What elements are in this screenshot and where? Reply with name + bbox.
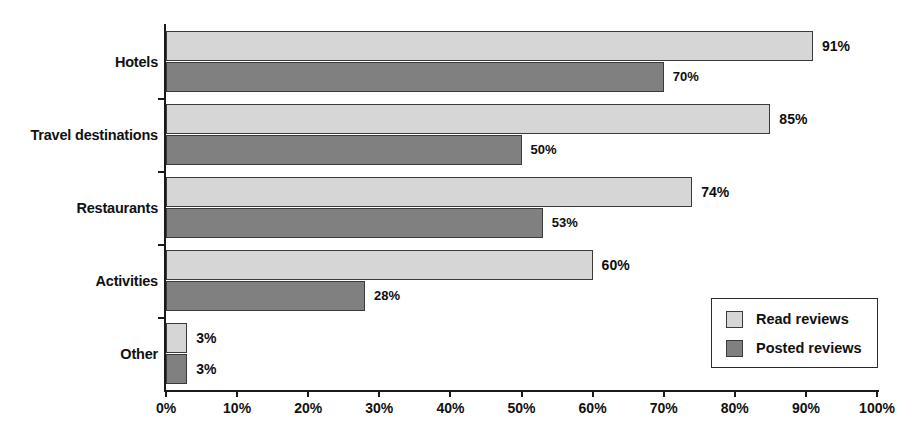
x-axis-tick <box>307 390 309 397</box>
bar-hotels-read-reviews <box>166 31 813 61</box>
bar-other-read-reviews <box>166 323 187 353</box>
y-axis-tick <box>158 244 165 246</box>
x-axis-tick <box>592 390 594 397</box>
x-axis-tick-label: 60% <box>579 401 607 415</box>
bar-restaurants-read-reviews <box>166 177 692 207</box>
bar-value-label: 91% <box>822 39 850 53</box>
legend-label-posted-reviews: Posted reviews <box>756 341 862 356</box>
y-axis-label-travel-destinations: Travel destinations <box>30 128 158 143</box>
x-axis-tick <box>521 390 523 397</box>
x-axis-tick <box>449 390 451 397</box>
legend-label-read-reviews: Read reviews <box>756 312 849 327</box>
bar-activities-posted-reviews <box>166 281 365 311</box>
bar-travel-destinations-read-reviews <box>166 104 770 134</box>
y-axis-label-hotels: Hotels <box>115 55 158 70</box>
x-axis-tick <box>236 390 238 397</box>
y-axis-tick <box>158 317 165 319</box>
x-axis-tick <box>378 390 380 397</box>
y-axis-category-labels: HotelsTravel destinationsRestaurantsActi… <box>0 25 158 390</box>
bar-travel-destinations-posted-reviews <box>166 135 522 165</box>
x-axis-tick-label: 40% <box>436 401 464 415</box>
x-axis-tick-label: 80% <box>721 401 749 415</box>
bar-value-label: 3% <box>196 362 216 376</box>
y-axis-tick <box>158 171 165 173</box>
bar-value-label: 85% <box>779 112 807 126</box>
y-axis-tick <box>158 98 165 100</box>
y-axis-label-activities: Activities <box>96 274 158 289</box>
x-axis-tick-label: 30% <box>365 401 393 415</box>
x-axis-tick <box>805 390 807 397</box>
legend-item-posted-reviews: Posted reviews <box>726 340 862 357</box>
bar-value-label: 74% <box>701 185 729 199</box>
legend-swatch-posted-reviews-icon <box>726 340 743 357</box>
x-axis-tick-label: 20% <box>294 401 322 415</box>
legend-item-read-reviews: Read reviews <box>726 311 849 328</box>
bar-hotels-posted-reviews <box>166 62 664 92</box>
legend-swatch-read-reviews-icon <box>726 311 743 328</box>
bar-value-label: 60% <box>602 258 630 272</box>
bar-activities-read-reviews <box>166 250 593 280</box>
bar-value-label: 3% <box>196 331 216 345</box>
bar-restaurants-posted-reviews <box>166 208 543 238</box>
bar-value-label: 28% <box>374 289 400 302</box>
x-axis-tick-label: 100% <box>859 401 895 415</box>
x-axis-tick-label: 90% <box>792 401 820 415</box>
chart-legend: Read reviews Posted reviews <box>711 298 878 368</box>
x-axis-tick-label: 10% <box>223 401 251 415</box>
x-axis-tick <box>876 390 878 397</box>
y-axis-label-restaurants: Restaurants <box>76 201 158 216</box>
x-axis-tick-label: 0% <box>156 401 176 415</box>
bar-other-posted-reviews <box>166 354 187 384</box>
bar-value-label: 53% <box>552 216 578 229</box>
x-axis-tick-label: 70% <box>650 401 678 415</box>
x-axis-tick-label: 50% <box>507 401 535 415</box>
x-axis-tick <box>734 390 736 397</box>
bar-value-label: 50% <box>531 143 557 156</box>
x-axis-tick <box>165 390 167 397</box>
bar-value-label: 70% <box>673 70 699 83</box>
x-axis-tick <box>663 390 665 397</box>
bar-chart: HotelsTravel destinationsRestaurantsActi… <box>0 0 912 442</box>
y-axis-label-other: Other <box>120 347 158 362</box>
